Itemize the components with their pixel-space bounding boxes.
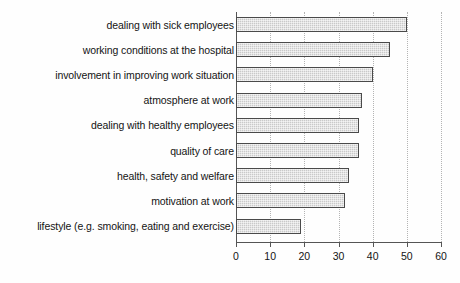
bar-row: atmosphere at work <box>0 88 460 113</box>
bar-wrapper <box>236 219 301 234</box>
bar-wrapper <box>236 67 373 82</box>
x-tick-label: 20 <box>289 250 319 262</box>
bar-row: motivation at work <box>0 188 460 213</box>
bar-row: dealing with healthy employees <box>0 113 460 138</box>
bar-wrapper <box>236 143 359 158</box>
bar-wrapper <box>236 193 345 208</box>
x-tick-10 <box>270 242 271 247</box>
category-label: atmosphere at work <box>10 94 234 106</box>
x-tick-label: 50 <box>392 250 422 262</box>
bar <box>236 193 345 208</box>
x-tick-label: 60 <box>426 250 456 262</box>
bar <box>236 118 359 133</box>
bar <box>236 67 373 82</box>
bar-row: health, safety and welfare <box>0 163 460 188</box>
bar <box>236 17 407 32</box>
category-label: working conditions at the hospital <box>10 44 234 56</box>
x-tick-30 <box>339 242 340 247</box>
bar <box>236 168 349 183</box>
bar-wrapper <box>236 17 407 32</box>
bar-row: lifestyle (e.g. smoking, eating and exer… <box>0 214 460 239</box>
bar-chart: dealing with sick employeesworking condi… <box>0 0 460 283</box>
bar-row: dealing with sick employees <box>0 12 460 37</box>
category-label: motivation at work <box>10 195 234 207</box>
category-label: health, safety and welfare <box>10 170 234 182</box>
bar-row: working conditions at the hospital <box>0 37 460 62</box>
x-tick-label: 40 <box>358 250 388 262</box>
category-label: involvement in improving work situation <box>10 69 234 81</box>
x-tick-0 <box>236 242 237 247</box>
x-tick-20 <box>304 242 305 247</box>
bar-row: quality of care <box>0 138 460 163</box>
bar <box>236 42 390 57</box>
bar-row: involvement in improving work situation <box>0 62 460 87</box>
category-label: lifestyle (e.g. smoking, eating and exer… <box>10 220 234 232</box>
bar-wrapper <box>236 118 359 133</box>
bar-wrapper <box>236 42 390 57</box>
x-tick-60 <box>441 242 442 247</box>
x-tick-label: 0 <box>221 250 251 262</box>
bar-wrapper <box>236 93 362 108</box>
category-label: dealing with healthy employees <box>10 119 234 131</box>
x-tick-40 <box>373 242 374 247</box>
bar-wrapper <box>236 168 349 183</box>
x-tick-50 <box>407 242 408 247</box>
bar <box>236 219 301 234</box>
bar <box>236 93 362 108</box>
category-label: quality of care <box>10 145 234 157</box>
bar <box>236 143 359 158</box>
x-tick-label: 30 <box>324 250 354 262</box>
x-tick-label: 10 <box>255 250 285 262</box>
category-label: dealing with sick employees <box>10 19 234 31</box>
